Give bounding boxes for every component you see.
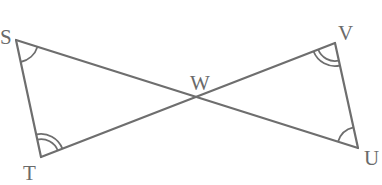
segment-tv — [41, 43, 335, 157]
label-s: S — [0, 25, 12, 49]
label-v: V — [338, 21, 353, 45]
angle-mark-t-inner — [37, 139, 58, 150]
segment-su — [16, 40, 358, 148]
label-t: T — [23, 161, 36, 185]
segment-st — [16, 40, 41, 157]
label-u: U — [364, 146, 379, 170]
geometry-diagram: S T V U W — [0, 0, 382, 185]
label-w: W — [190, 71, 210, 95]
segment-vu — [335, 43, 358, 148]
angle-mark-u — [338, 127, 354, 141]
angle-mark-s — [21, 47, 38, 62]
